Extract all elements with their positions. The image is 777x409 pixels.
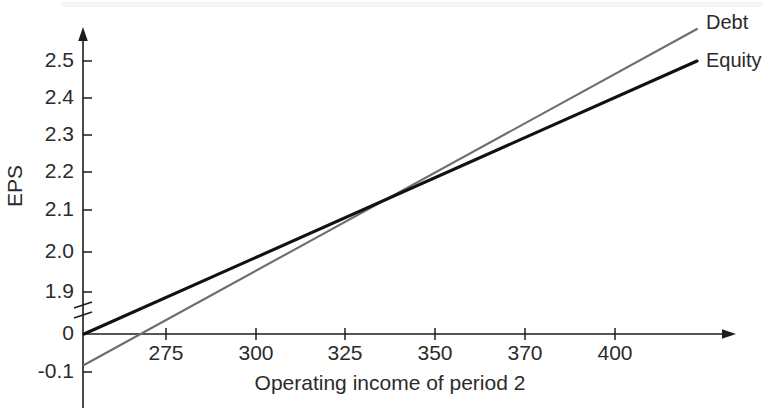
y-tick-label: 0 bbox=[62, 321, 74, 344]
x-axis-arrowhead bbox=[722, 329, 736, 339]
y-tick-label: 2.5 bbox=[45, 48, 74, 71]
y-tick-labels: 2.5 2.4 2.3 2.2 2.1 2.0 1.9 0 -0.1 bbox=[38, 48, 74, 382]
x-tick-label: 325 bbox=[327, 341, 362, 364]
x-tick-label: 300 bbox=[238, 341, 273, 364]
x-tick-labels: 275 300 325 350 370 400 bbox=[148, 341, 632, 364]
eps-vs-operating-income-chart: 2.5 2.4 2.3 2.2 2.1 2.0 1.9 0 -0.1 275 3… bbox=[0, 0, 777, 409]
x-tick-label: 350 bbox=[417, 341, 452, 364]
chart-container: 2.5 2.4 2.3 2.2 2.1 2.0 1.9 0 -0.1 275 3… bbox=[0, 0, 777, 409]
series-label-debt: Debt bbox=[706, 11, 749, 33]
y-tick-label: 2.1 bbox=[45, 197, 74, 220]
x-tick-label: 370 bbox=[507, 341, 542, 364]
x-tick-label: 275 bbox=[148, 341, 183, 364]
y-tick-label: -0.1 bbox=[38, 359, 74, 382]
y-tick-label: 2.0 bbox=[45, 239, 74, 262]
x-axis-title: Operating income of period 2 bbox=[255, 371, 526, 394]
y-axis-arrowhead bbox=[78, 27, 88, 41]
y-tick-label: 2.4 bbox=[45, 85, 75, 108]
y-axis bbox=[78, 27, 88, 408]
series-line-equity bbox=[84, 61, 697, 334]
y-axis-title: EPS bbox=[3, 165, 26, 207]
y-tick-marks bbox=[83, 61, 92, 372]
series-label-equity: Equity bbox=[706, 49, 762, 71]
x-tick-label: 400 bbox=[597, 341, 632, 364]
y-tick-label: 1.9 bbox=[45, 279, 74, 302]
y-tick-label: 2.3 bbox=[45, 122, 74, 145]
y-tick-label: 2.2 bbox=[45, 159, 74, 182]
x-axis bbox=[83, 329, 736, 339]
